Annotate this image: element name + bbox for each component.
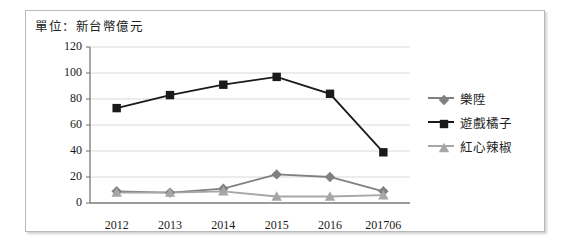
legend-item[interactable]: 遊戲橘子 bbox=[428, 110, 538, 134]
legend-item-label: 紅心辣椒 bbox=[460, 137, 512, 156]
x-axis-tick-label: 2015 bbox=[250, 218, 304, 233]
y-axis-tick-label: 100 bbox=[48, 65, 82, 80]
x-axis-tick-label: 201706 bbox=[356, 218, 410, 233]
data-point-triangle bbox=[439, 143, 449, 152]
y-axis-tick-label: 0 bbox=[48, 195, 82, 210]
x-axis-tick-label: 2013 bbox=[143, 218, 197, 233]
data-point-square bbox=[440, 120, 448, 128]
x-axis-tick-label: 2014 bbox=[196, 218, 250, 233]
legend-item-label: 遊戲橘子 bbox=[460, 113, 512, 132]
chart-legend: 樂陞遊戲橘子紅心辣椒 bbox=[428, 86, 538, 158]
y-axis-tick-label: 80 bbox=[48, 91, 82, 106]
y-axis-tick-label: 20 bbox=[48, 169, 82, 184]
x-axis-tick-label: 2016 bbox=[303, 218, 357, 233]
y-axis-tick-label: 40 bbox=[48, 143, 82, 158]
data-point-diamond bbox=[439, 95, 449, 105]
y-axis-tick-label: 60 bbox=[48, 117, 82, 132]
legend-marker-triangle-icon bbox=[428, 139, 454, 153]
legend-item-label: 樂陞 bbox=[460, 89, 486, 108]
chart-title: 單位：新台幣億元 bbox=[35, 16, 143, 35]
legend-marker-diamond-icon bbox=[428, 91, 454, 105]
x-axis-tick-label: 2012 bbox=[90, 218, 144, 233]
y-axis-tick-label: 120 bbox=[48, 39, 82, 54]
legend-item[interactable]: 樂陞 bbox=[428, 86, 538, 110]
legend-item[interactable]: 紅心辣椒 bbox=[428, 134, 538, 158]
legend-marker-square-icon bbox=[428, 115, 454, 129]
